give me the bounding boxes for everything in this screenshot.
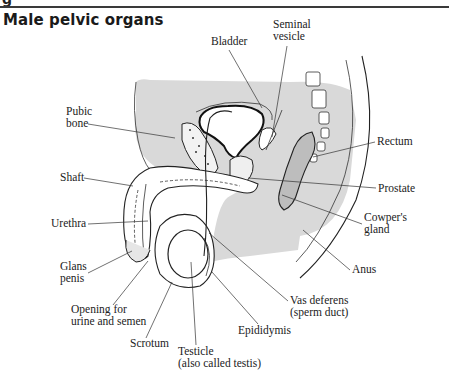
label-text: Testicle	[178, 345, 214, 357]
leader-line	[146, 282, 172, 338]
label-text: (also called testis)	[178, 357, 261, 370]
testicle-shape	[168, 230, 208, 278]
label-text: Rectum	[377, 135, 413, 147]
label-text: Glans	[60, 260, 87, 272]
label-text: bone	[66, 117, 88, 129]
label-text: Vas deferens	[290, 294, 349, 306]
label-text: Shaft	[60, 171, 85, 183]
male-pelvic-organs-diagram: BladderSeminalvesiclePubicboneRectumShaf…	[0, 0, 449, 378]
label-text: penis	[60, 272, 85, 285]
label-text: Anus	[352, 263, 377, 275]
leader-line	[113, 261, 148, 305]
leader-line	[303, 230, 350, 270]
label-shaft: Shaft	[60, 171, 133, 186]
label-anus: Anus	[303, 230, 377, 275]
label-epididymis: Epididymis	[212, 272, 292, 337]
label-text: Prostate	[378, 182, 415, 194]
label-text: urine and semen	[71, 315, 147, 327]
scrotum-shape	[155, 214, 214, 287]
label-text: Scrotum	[130, 337, 169, 349]
label-text: Pubic	[66, 105, 92, 117]
label-text: Urethra	[51, 217, 86, 229]
label-text: gland	[364, 223, 390, 236]
leader-line	[88, 251, 132, 273]
label-text: Epididymis	[238, 324, 292, 337]
label-text: vesicle	[273, 30, 305, 42]
label-text: (sperm duct)	[290, 306, 349, 319]
labels-layer: BladderSeminalvesiclePubicboneRectumShaf…	[51, 18, 415, 370]
leader-line	[84, 178, 133, 186]
leader-line	[212, 272, 258, 324]
label-text: Bladder	[211, 35, 248, 47]
label-text: Seminal	[273, 18, 311, 30]
label-glans-penis: Glanspenis	[60, 251, 132, 285]
